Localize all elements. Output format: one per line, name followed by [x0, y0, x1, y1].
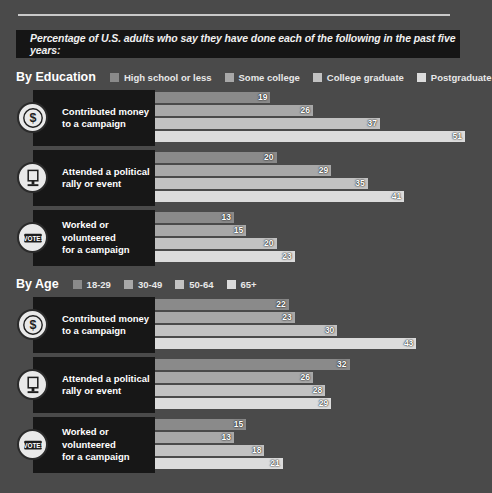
bar-value-label: 26 — [301, 106, 310, 115]
legend-item[interactable]: 30-49 — [124, 279, 162, 290]
legend-swatch-icon — [110, 73, 119, 82]
bar-row: 43 — [155, 338, 468, 349]
bar-row: 29 — [155, 165, 468, 176]
bar-value-label: 20 — [264, 153, 273, 162]
legend-item[interactable]: High school or less — [110, 72, 212, 83]
activity-panel: Attended a politicalrally or event — [33, 357, 155, 413]
svg-text:$: $ — [29, 318, 36, 332]
bar[interactable]: 26 — [155, 372, 313, 383]
legend-label: 30-49 — [138, 279, 162, 290]
subtitle-text: Percentage of U.S. adults who say they h… — [30, 32, 460, 56]
bar[interactable]: 18 — [155, 445, 264, 456]
bar-row: 26 — [155, 105, 468, 116]
bar-track-group: 32262829 — [155, 359, 468, 415]
bar[interactable]: 15 — [155, 419, 246, 430]
legend-item[interactable]: Some college — [225, 72, 300, 83]
bar-row: 37 — [155, 118, 468, 129]
bar[interactable]: 26 — [155, 105, 313, 116]
bar-row: 22 — [155, 299, 468, 310]
bar-value-label: 13 — [222, 213, 231, 222]
legend-label: Postgraduate — [431, 72, 492, 83]
bar[interactable]: 22 — [155, 299, 289, 310]
bar[interactable]: 29 — [155, 165, 331, 176]
bar-row: 18 — [155, 445, 468, 456]
bar-row: 20 — [155, 238, 468, 249]
activity-panel: VOTE!Worked or volunteeredfor a campaign — [33, 210, 155, 266]
bar-row: 19 — [155, 92, 468, 103]
bar-track-group: 13152023 — [155, 212, 468, 268]
bar[interactable]: 30 — [155, 325, 337, 336]
bar[interactable]: 37 — [155, 118, 380, 129]
bar-row: 23 — [155, 312, 468, 323]
bar-value-label: 37 — [367, 119, 376, 128]
bar-value-label: 15 — [234, 420, 243, 429]
bar-row: 15 — [155, 419, 468, 430]
bar-row: 35 — [155, 178, 468, 189]
podium-icon — [17, 162, 48, 193]
legend-swatch-icon — [175, 280, 184, 289]
legend-label: 50-64 — [189, 279, 213, 290]
section-header-age: By Age18-2930-4950-6465+ — [16, 275, 464, 293]
activity-label: Worked or volunteeredfor a campaign — [62, 426, 155, 464]
bar-track-group: 15131821 — [155, 419, 468, 475]
legend-label: Some college — [239, 72, 300, 83]
activity-panel: VOTE!Worked or volunteeredfor a campaign — [33, 417, 155, 473]
bar-value-label: 35 — [355, 179, 364, 188]
bar[interactable]: 23 — [155, 251, 295, 262]
legend-item[interactable]: 50-64 — [175, 279, 213, 290]
legend-label: 65+ — [241, 279, 257, 290]
bar[interactable]: 19 — [155, 92, 270, 103]
activity-panel: $Contributed moneyto a campaign — [33, 90, 155, 146]
vote-badge-icon: VOTE! — [17, 222, 48, 253]
chart-group: Attended a politicalrally or event322628… — [0, 357, 468, 417]
legend-item[interactable]: College graduate — [313, 72, 404, 83]
dollar-coin-icon: $ — [17, 309, 48, 340]
legend-swatch-icon — [313, 73, 322, 82]
bar[interactable]: 43 — [155, 338, 416, 349]
bar-row: 26 — [155, 372, 468, 383]
bar[interactable]: 23 — [155, 312, 295, 323]
bar-value-label: 28 — [313, 386, 322, 395]
legend-item[interactable]: 18-29 — [73, 279, 111, 290]
svg-text:VOTE!: VOTE! — [23, 234, 43, 241]
legend-item[interactable]: 65+ — [227, 279, 257, 290]
bar-row: 41 — [155, 191, 468, 202]
legend-item[interactable]: Postgraduate — [417, 72, 492, 83]
bar-row: 29 — [155, 398, 468, 409]
bar[interactable]: 15 — [155, 225, 246, 236]
subtitle-banner: Percentage of U.S. adults who say they h… — [16, 30, 460, 58]
bar-row: 20 — [155, 152, 468, 163]
activity-panel: $Contributed moneyto a campaign — [33, 297, 155, 353]
bar[interactable]: 41 — [155, 191, 404, 202]
bar[interactable]: 21 — [155, 458, 283, 469]
bar-row: 30 — [155, 325, 468, 336]
bar-value-label: 29 — [319, 399, 328, 408]
bar[interactable]: 51 — [155, 131, 465, 142]
activity-label: Contributed moneyto a campaign — [62, 106, 153, 131]
bar[interactable]: 29 — [155, 398, 331, 409]
bar-row: 13 — [155, 212, 468, 223]
legend-swatch-icon — [227, 280, 236, 289]
activity-label: Worked or volunteeredfor a campaign — [62, 219, 155, 257]
bar-value-label: 19 — [258, 93, 267, 102]
bar-value-label: 15 — [234, 226, 243, 235]
bar[interactable]: 20 — [155, 152, 277, 163]
bar[interactable]: 32 — [155, 359, 350, 370]
bar[interactable]: 13 — [155, 212, 234, 223]
dollar-coin-icon: $ — [17, 102, 48, 133]
bar[interactable]: 28 — [155, 385, 325, 396]
bar[interactable]: 35 — [155, 178, 368, 189]
bar-row: 21 — [155, 458, 468, 469]
bar-value-label: 41 — [392, 192, 401, 201]
bar-row: 51 — [155, 131, 468, 142]
bar[interactable]: 20 — [155, 238, 277, 249]
bar-value-label: 21 — [270, 459, 279, 468]
activity-label: Attended a politicalrally or event — [62, 373, 154, 398]
vote-badge-icon: VOTE! — [17, 429, 48, 460]
legend-swatch-icon — [225, 73, 234, 82]
legend-label: High school or less — [124, 72, 212, 83]
bar[interactable]: 13 — [155, 432, 234, 443]
bar-row: 15 — [155, 225, 468, 236]
legend-swatch-icon — [417, 73, 426, 82]
section-header-education: By EducationHigh school or lessSome coll… — [16, 68, 464, 86]
